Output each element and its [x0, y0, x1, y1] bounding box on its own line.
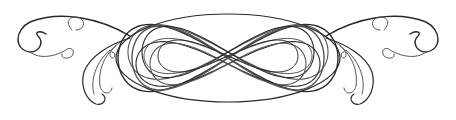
interlace-loop: [150, 43, 306, 85]
interlace-loop: [132, 26, 324, 90]
interlace-loop: [158, 40, 298, 72]
right-scroll: [326, 16, 438, 104]
center-interlace: [116, 14, 340, 102]
left-scroll: [18, 16, 130, 104]
ornament-flourish: [0, 0, 456, 120]
